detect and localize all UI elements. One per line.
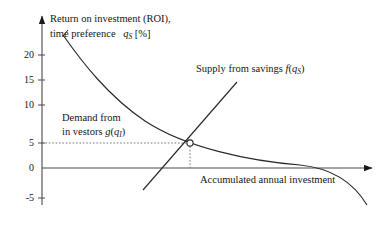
y-tick-label-20: 20 [12,49,34,60]
demand-function-name: g [105,126,110,137]
y-tick-label-neg5: -5 [12,192,34,203]
y-axis-title-line2: time preference qS [%] [50,27,151,43]
supply-function-arg-sub: S [297,67,301,76]
y-axis-title-line2-text: time preference [50,28,116,39]
chart-canvas: 20 15 10 5 0 -5 Return on investment (RO… [0,0,387,226]
supply-function-name: f [286,63,289,74]
demand-series-label-text: in vestors [62,126,103,137]
supply-series-label: Supply from savings f(qS) [196,62,304,78]
equilibrium-point-marker [187,140,193,146]
demand-series-label-line2: in vestors g(qI) [62,125,125,141]
y-axis-title-units: [%] [135,28,151,39]
y-tick-label-5: 5 [12,137,34,148]
y-axis-title-line1: Return on investment (ROI), [50,12,171,25]
demand-function-arg-sub: I [119,130,122,139]
y-tick-label-15: 15 [12,74,34,85]
x-axis-title: Accumulated annual investment [200,173,335,186]
supply-series-label-text: Supply from savings [196,63,283,74]
y-tick-label-10: 10 [12,99,34,110]
demand-series-label-line1: Demand from [62,111,121,124]
y-axis-title-var-sub: S [128,32,132,41]
y-tick-label-0: 0 [12,162,34,173]
